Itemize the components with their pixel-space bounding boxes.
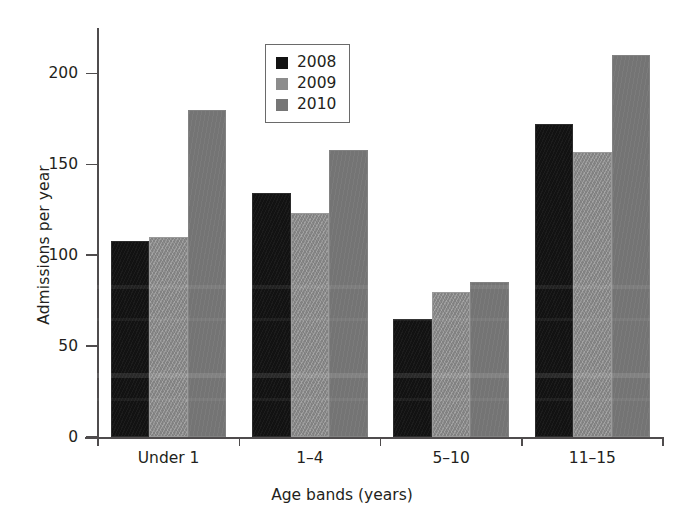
x-axis-tick: [380, 437, 382, 446]
bar: [252, 193, 291, 437]
y-axis-tick: [86, 436, 97, 438]
legend-swatch-icon: [276, 57, 288, 69]
y-axis-tick-label: 200: [8, 64, 78, 82]
y-axis-tick-label: 100: [8, 246, 78, 264]
legend-item[interactable]: 2009: [276, 73, 336, 94]
bar: [573, 152, 612, 437]
y-axis-tick-label: 0: [8, 428, 78, 446]
legend-item[interactable]: 2010: [276, 94, 336, 115]
legend-swatch-icon: [276, 99, 288, 111]
x-axis-tick-label: 1–4: [296, 449, 323, 467]
x-axis-tick-label: Under 1: [138, 449, 200, 467]
x-axis-tick: [662, 437, 664, 446]
legend-swatch-icon: [276, 78, 288, 90]
x-axis-tick: [239, 437, 241, 446]
bar: [149, 237, 188, 437]
bar: [111, 241, 150, 437]
y-axis-tick: [86, 73, 97, 75]
x-axis-tick: [97, 437, 99, 446]
y-axis-tick: [86, 254, 97, 256]
legend-label: 2008: [297, 55, 336, 71]
bar: [291, 213, 330, 437]
y-axis-title: Admissions per year: [35, 115, 53, 375]
y-axis-tick: [86, 345, 97, 347]
y-axis-tick-label: 50: [8, 337, 78, 355]
legend-label: 2009: [297, 76, 336, 92]
y-axis-tick: [86, 164, 97, 166]
y-axis-line: [97, 28, 99, 439]
bar-chart: Admissions per year 050100150200 Under 1…: [0, 0, 684, 526]
bar: [535, 124, 574, 437]
bar: [470, 282, 509, 437]
x-axis-line: [85, 437, 663, 439]
x-axis-tick: [521, 437, 523, 446]
legend: 2008 2009 2010: [265, 44, 350, 123]
x-axis-tick-label: 5–10: [432, 449, 469, 467]
y-axis-tick-label: 150: [8, 155, 78, 173]
bar: [432, 292, 471, 437]
x-axis-tick-label: 11–15: [569, 449, 616, 467]
x-axis-title: Age bands (years): [0, 486, 684, 504]
legend-item[interactable]: 2008: [276, 52, 336, 73]
bar: [188, 110, 227, 437]
bar: [612, 55, 651, 437]
legend-label: 2010: [297, 97, 336, 113]
bar: [393, 319, 432, 437]
bar: [329, 150, 368, 437]
